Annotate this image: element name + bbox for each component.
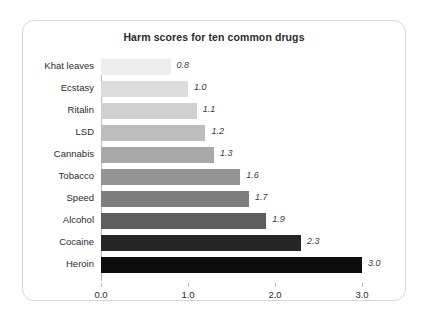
- bar-category-label: Cocaine: [59, 236, 94, 247]
- bar-category-label: Tobacco: [59, 170, 94, 181]
- bar: [101, 125, 205, 141]
- chart-title: Harm scores for ten common drugs: [23, 31, 405, 43]
- x-tick-label: 2.0: [268, 289, 281, 300]
- bar-row: Cannabis1.3: [101, 147, 214, 163]
- bar-category-label: Ecstasy: [61, 82, 94, 93]
- bar-category-label: Cannabis: [54, 148, 94, 159]
- bar-category-label: LSD: [76, 126, 94, 137]
- bar: [101, 235, 301, 251]
- bar-category-label: Speed: [67, 192, 94, 203]
- bar-category-label: Khat leaves: [44, 60, 94, 71]
- bar: [101, 191, 249, 207]
- x-tick: [362, 283, 363, 287]
- bar-value-label: 0.8: [177, 60, 190, 70]
- bar: [101, 169, 240, 185]
- bar: [101, 59, 171, 75]
- x-tick: [101, 283, 102, 287]
- bar-row: Alcohol1.9: [101, 213, 266, 229]
- bar-row: LSD1.2: [101, 125, 205, 141]
- bar-value-label: 1.2: [211, 126, 224, 136]
- bar-chart-plot-area: Khat leaves0.8Ecstasy1.0Ritalin1.1LSD1.2…: [101, 59, 401, 279]
- bar-row: Ritalin1.1: [101, 103, 197, 119]
- bar-value-label: 3.0: [368, 258, 381, 268]
- bar-row: Cocaine2.3: [101, 235, 301, 251]
- bar-category-label: Ritalin: [68, 104, 94, 115]
- bar-category-label: Heroin: [66, 258, 94, 269]
- x-tick: [188, 283, 189, 287]
- bar-value-label: 1.0: [194, 82, 207, 92]
- bar-row: Heroin3.0: [101, 257, 362, 273]
- bar-category-label: Alcohol: [63, 214, 94, 225]
- bar-value-label: 2.3: [307, 236, 320, 246]
- x-tick-label: 1.0: [181, 289, 194, 300]
- bar: [101, 103, 197, 119]
- bar-row: Tobacco1.6: [101, 169, 240, 185]
- x-tick: [275, 283, 276, 287]
- bar-row: Speed1.7: [101, 191, 249, 207]
- bar-value-label: 1.6: [246, 170, 259, 180]
- bar-row: Khat leaves0.8: [101, 59, 171, 75]
- bar: [101, 147, 214, 163]
- bar-row: Ecstasy1.0: [101, 81, 188, 97]
- x-tick-label: 3.0: [355, 289, 368, 300]
- bar-value-label: 1.9: [272, 214, 285, 224]
- chart-card: Harm scores for ten common drugs Khat le…: [22, 20, 406, 301]
- bar-value-label: 1.1: [203, 104, 216, 114]
- bar: [101, 257, 362, 273]
- bar-value-label: 1.7: [255, 192, 268, 202]
- x-tick-label: 0.0: [94, 289, 107, 300]
- bar: [101, 81, 188, 97]
- bar-value-label: 1.3: [220, 148, 233, 158]
- bar: [101, 213, 266, 229]
